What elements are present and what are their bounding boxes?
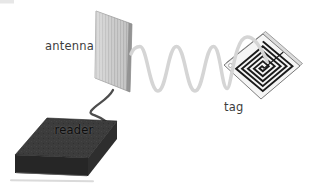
reader-shadow — [11, 180, 93, 181]
antenna-label: antenna — [44, 39, 94, 53]
rfid-diagram — [0, 0, 311, 184]
cable — [91, 90, 113, 122]
tag-label: tag — [224, 100, 243, 114]
diagram-canvas: antenna reader tag — [0, 0, 311, 184]
scan-artifact — [0, 0, 14, 4]
antenna-plate-shading — [95, 11, 132, 92]
rfid-tag-icon — [224, 32, 303, 100]
reader-label: reader — [48, 123, 100, 137]
antenna-panel-icon — [95, 11, 132, 92]
